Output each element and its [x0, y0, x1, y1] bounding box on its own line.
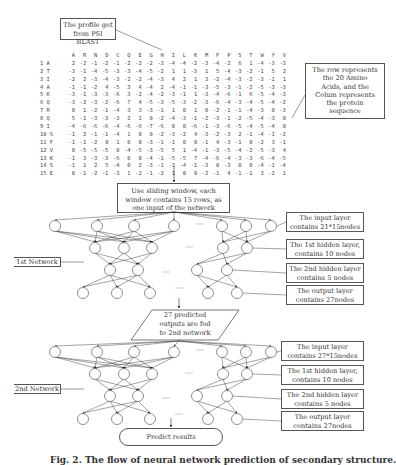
neuron-node [78, 414, 89, 425]
neuron-node [203, 288, 214, 299]
neuron-node [222, 391, 233, 402]
neuron-node [145, 414, 156, 425]
neuron-node [222, 265, 233, 276]
neuron-node [105, 265, 116, 276]
neuron-node [92, 221, 103, 232]
neuron-node [232, 414, 243, 425]
neuron-node [232, 288, 243, 299]
neuron-node [203, 414, 214, 425]
neuron-node [145, 288, 156, 299]
neuron-node [169, 347, 180, 358]
neuron-node [192, 265, 203, 276]
neuron-node [78, 288, 89, 299]
neuron-node [242, 369, 253, 380]
neuron-node [266, 347, 277, 358]
neuron-node [242, 243, 253, 254]
neuron-node [241, 347, 252, 358]
neuron-node [112, 414, 123, 425]
neuron-node [90, 243, 101, 254]
neuron-node [92, 347, 103, 358]
neuron-node [119, 369, 130, 380]
neuron-node [241, 221, 252, 232]
neuron-node [147, 243, 158, 254]
neuron-node [119, 243, 130, 254]
neuron-node [217, 221, 228, 232]
neuron-node [218, 243, 229, 254]
neuron-node [192, 391, 203, 402]
neuron-node [169, 221, 180, 232]
neuron-node [147, 369, 158, 380]
neuron-node [112, 288, 123, 299]
neuron-node [218, 369, 229, 380]
neuron-node [90, 369, 101, 380]
neuron-node [266, 221, 277, 232]
neuron-node [133, 265, 144, 276]
neuron-node [129, 221, 140, 232]
neuron-node [133, 391, 144, 402]
neuron-node [129, 347, 140, 358]
neuron-node [50, 221, 61, 232]
neuron-node [50, 347, 61, 358]
neuron-node [217, 347, 228, 358]
neuron-node [105, 391, 116, 402]
